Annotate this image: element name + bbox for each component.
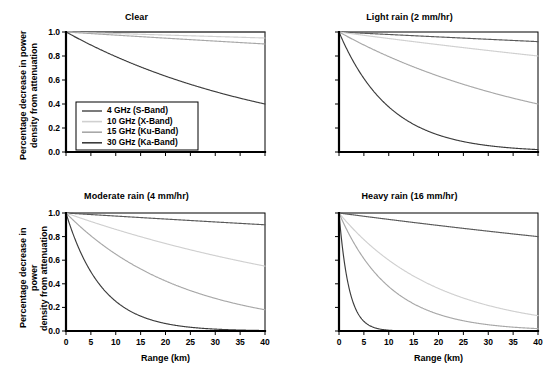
- y-tick-label-moderate-rain-0: 0.0: [48, 326, 60, 336]
- y-tick-label-moderate-rain-2: 0.4: [48, 279, 60, 289]
- plot-heavy-rain: 0510152025303540Range (km): [273, 191, 546, 379]
- figure-rain-attenuation: Percentage decrease in power density fro…: [0, 0, 546, 379]
- x-tick-label-heavy-rain-3: 15: [409, 337, 419, 347]
- panel-moderate-rain: Moderate rain (4 mm/hr) 0.00.20.40.60.81…: [0, 191, 273, 379]
- x-tick-label-moderate-rain-3: 15: [136, 337, 146, 347]
- x-axis-title-moderate-rain: Range (km): [141, 353, 190, 363]
- panel-heavy-rain: Heavy rain (16 mm/hr) 0510152025303540Ra…: [273, 191, 546, 379]
- plot-moderate-rain: 0.00.20.40.60.81.00510152025303540Range …: [0, 191, 273, 379]
- plot-frame-light-rain: [339, 32, 538, 152]
- x-tick-label-moderate-rain-5: 25: [186, 337, 196, 347]
- y-tick-label-clear-4: 0.8: [48, 51, 60, 61]
- y-tick-label-clear-3: 0.6: [48, 75, 60, 85]
- x-tick-label-moderate-rain-6: 30: [211, 337, 221, 347]
- legend: 4 GHz (S-Band)10 GHz (X-Band)15 GHz (Ku-…: [76, 102, 198, 150]
- x-tick-label-moderate-rain-1: 5: [89, 337, 94, 347]
- x-tick-label-moderate-rain-8: 40: [260, 337, 270, 347]
- panel-light-rain: Light rain (2 mm/hr): [273, 6, 546, 188]
- x-tick-label-moderate-rain-0: 0: [64, 337, 69, 347]
- y-tick-label-moderate-rain-5: 1.0: [48, 208, 60, 218]
- chart-svg-heavy-rain: 0510152025303540Range (km): [273, 191, 546, 379]
- x-tick-label-heavy-rain-1: 5: [362, 337, 367, 347]
- x-tick-label-heavy-rain-5: 25: [459, 337, 469, 347]
- x-tick-label-moderate-rain-4: 20: [161, 337, 171, 347]
- y-tick-label-moderate-rain-4: 0.8: [48, 232, 60, 242]
- x-tick-label-heavy-rain-2: 10: [384, 337, 394, 347]
- y-tick-label-moderate-rain-3: 0.6: [48, 255, 60, 265]
- x-tick-label-heavy-rain-0: 0: [337, 337, 342, 347]
- x-tick-label-heavy-rain-7: 35: [508, 337, 518, 347]
- panel-clear: Clear 0.00.20.40.60.81.04 GHz (S-Band)10…: [0, 6, 273, 188]
- y-tick-label-clear-2: 0.4: [48, 99, 60, 109]
- plot-frame-heavy-rain: [339, 213, 538, 331]
- x-axis-title-heavy-rain: Range (km): [414, 353, 463, 363]
- y-tick-label-moderate-rain-1: 0.2: [48, 302, 60, 312]
- y-tick-label-clear-1: 0.2: [48, 123, 60, 133]
- legend-label-2: 15 GHz (Ku-Band): [107, 126, 178, 136]
- plot-light-rain: [273, 6, 546, 188]
- x-tick-label-moderate-rain-2: 10: [111, 337, 121, 347]
- legend-label-1: 10 GHz (X-Band): [107, 116, 173, 126]
- y-tick-label-clear-0: 0.0: [48, 147, 60, 157]
- legend-label-3: 30 GHz (Ka-Band): [107, 137, 178, 147]
- x-tick-label-heavy-rain-6: 30: [484, 337, 494, 347]
- chart-svg-clear: 0.00.20.40.60.81.04 GHz (S-Band)10 GHz (…: [0, 6, 273, 188]
- x-tick-label-heavy-rain-8: 40: [533, 337, 543, 347]
- x-tick-label-heavy-rain-4: 20: [434, 337, 444, 347]
- y-tick-label-clear-5: 1.0: [48, 27, 60, 37]
- x-tick-label-moderate-rain-7: 35: [235, 337, 245, 347]
- plot-frame-moderate-rain: [66, 213, 265, 331]
- chart-svg-moderate-rain: 0.00.20.40.60.81.00510152025303540Range …: [0, 191, 273, 379]
- legend-label-0: 4 GHz (S-Band): [107, 105, 168, 115]
- plot-clear: 0.00.20.40.60.81.04 GHz (S-Band)10 GHz (…: [0, 6, 273, 188]
- chart-svg-light-rain: [273, 6, 546, 188]
